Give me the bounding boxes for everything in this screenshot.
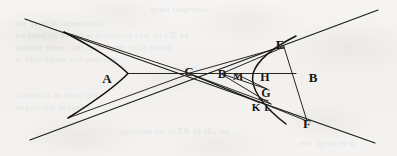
point-label-g: G (261, 87, 270, 99)
hyperbola-diagram (0, 0, 397, 156)
point-label-d: D (218, 68, 227, 80)
segment-tangent-upper (64, 32, 190, 74)
point-label-e: E (276, 38, 285, 51)
segment-tangent-lower (68, 74, 190, 119)
figure-page: quasi tangentestur quod in consectarioeo… (0, 0, 397, 156)
point-label-f: F (303, 117, 311, 130)
point-label-b: B (309, 71, 318, 84)
point-label-l: L (264, 102, 271, 113)
point-label-k: K (252, 102, 261, 113)
chord-C-to-L (189, 74, 271, 105)
asymptote-upper-left-to-lower-right (25, 19, 375, 143)
left-branch-curve (64, 32, 128, 118)
segment-E-to-F (284, 47, 307, 121)
asymptote-group (25, 10, 378, 143)
asymptote-lower-left-to-upper-right (30, 10, 378, 140)
point-label-h: H (260, 71, 269, 83)
point-label-m: M (233, 71, 243, 82)
point-label-a: A (102, 72, 111, 85)
point-label-c: C (184, 65, 193, 78)
